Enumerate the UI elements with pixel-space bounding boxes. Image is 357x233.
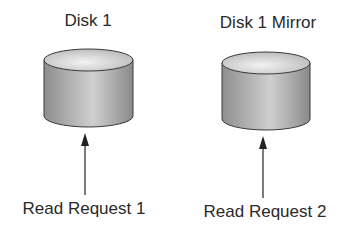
read-request-2-label: Read Request 2: [204, 202, 327, 222]
read-request-1-label: Read Request 1: [23, 199, 146, 219]
arrow-up-icon: [81, 133, 89, 195]
disk-1-cylinder-icon: [44, 49, 133, 127]
arrow-up-icon: [259, 136, 267, 198]
disk-1-title: Disk 1: [64, 11, 111, 31]
disk-1-mirror-cylinder-icon: [222, 52, 310, 130]
disk-1-mirror-title: Disk 1 Mirror: [220, 13, 316, 33]
